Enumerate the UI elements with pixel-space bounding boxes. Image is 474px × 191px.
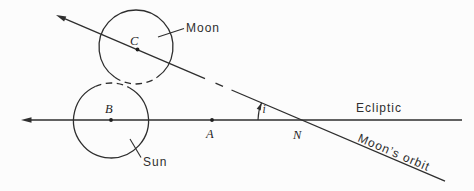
- moons-orbit-line-dash-segment: [216, 83, 224, 86]
- moons-orbit-line-upper-segment: [64, 18, 205, 78]
- sun-circle-dashed-top-arc: [95, 83, 130, 88]
- moons-orbit-label: Moon’s orbit: [356, 131, 432, 174]
- inclination-angle-arrowhead-icon: [257, 103, 262, 111]
- point-label-a: A: [205, 127, 214, 141]
- point-label-c: C: [130, 34, 139, 48]
- sun-label: Sun: [143, 155, 167, 169]
- moon-label: Moon: [186, 21, 220, 35]
- point-label-n: N: [292, 128, 302, 142]
- sun-circle: [74, 87, 149, 158]
- moon-circle-dashed-bottom-arc: [115, 77, 157, 84]
- point-dot-c: [136, 48, 140, 52]
- ecliptic-label: Ecliptic: [356, 101, 402, 115]
- point-dot-a: [210, 118, 214, 122]
- angle-label-i: i: [263, 103, 266, 115]
- moons-orbit-arrowhead-icon: [56, 15, 66, 22]
- sun-label-leader-line: [130, 139, 141, 158]
- ecliptic-left-arrowhead-icon: [21, 117, 32, 122]
- point-dot-b: [109, 118, 113, 122]
- diagram-canvas: C B A N i Moon Sun Ecliptic Moon’s orbit: [0, 0, 474, 191]
- lunar-orbit-inclination-diagram: C B A N i Moon Sun Ecliptic Moon’s orbit: [0, 0, 474, 191]
- point-label-b: B: [105, 102, 113, 116]
